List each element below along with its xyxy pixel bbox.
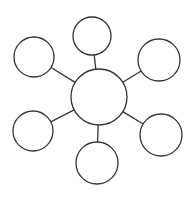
connector-line-hub-satellite-lower-left	[51, 110, 74, 122]
connector-line-hub-satellite-upper-right	[123, 71, 141, 82]
connector-line-hub-satellite-lower-right	[123, 112, 143, 124]
connector-line-hub-satellite-upper-left	[51, 67, 75, 82]
satellite-top-circle	[73, 17, 111, 55]
hub-circle	[71, 69, 127, 125]
satellite-upper-right-circle	[138, 39, 180, 81]
connector-line-hub-satellite-top	[94, 55, 96, 69]
satellite-lower-left-circle	[13, 111, 53, 151]
diagram-canvas	[0, 0, 194, 198]
satellite-bottom-circle	[76, 142, 118, 184]
connector-line-hub-satellite-bottom	[98, 125, 99, 142]
satellite-upper-left-circle	[14, 37, 54, 77]
spider-diagram	[0, 0, 194, 198]
satellite-lower-right-circle	[140, 114, 182, 156]
